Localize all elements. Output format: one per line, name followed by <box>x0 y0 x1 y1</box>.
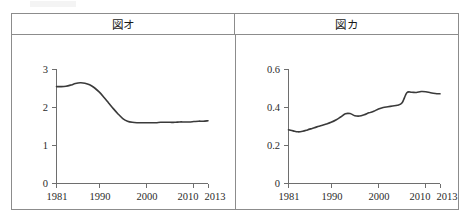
x-ticks-left <box>57 184 209 189</box>
y-tick-label: 1 <box>43 140 48 151</box>
data-line-left <box>57 83 209 123</box>
x-tick-labels-right: 1981 1990 2000 2010 2013 <box>279 191 458 202</box>
x-tick-label: 2010 <box>178 191 199 202</box>
figure-title-left: 図オ <box>12 14 235 34</box>
y-tick-labels-left: 3 2 1 0 <box>43 64 48 189</box>
x-tick-label: 1990 <box>322 191 343 202</box>
x-tick-label: 2013 <box>205 191 226 202</box>
chart-svg-right: 0.6 0.4 0.2 0 1981 1990 <box>236 35 459 209</box>
y-tick-label: 0 <box>43 178 48 189</box>
y-tick-label: 0.4 <box>267 102 281 113</box>
data-line-right <box>289 91 441 131</box>
x-tick-label: 2000 <box>369 191 390 202</box>
x-tick-labels-left: 1981 1990 2000 2010 2013 <box>47 191 226 202</box>
figure-title-right: 図カ <box>235 14 458 34</box>
y-tick-label: 3 <box>43 64 48 75</box>
x-tick-label: 1981 <box>47 191 68 202</box>
scan-artifact <box>30 1 76 7</box>
x-ticks-right <box>289 184 441 189</box>
x-tick-label: 2000 <box>137 191 158 202</box>
chart-panel-left: 3 2 1 0 1981 1990 <box>12 35 236 209</box>
chart-panel-right: 0.6 0.4 0.2 0 1981 1990 <box>236 35 459 209</box>
y-tick-label: 0.6 <box>267 64 280 75</box>
x-tick-label: 2010 <box>410 191 431 202</box>
y-tick-label: 0.2 <box>267 140 280 151</box>
page-root: 図オ 図カ 3 2 1 <box>0 0 470 222</box>
chart-svg-left: 3 2 1 0 1981 1990 <box>12 35 235 209</box>
x-tick-label: 1981 <box>279 191 300 202</box>
figure-title-row: 図オ 図カ <box>12 14 458 35</box>
y-tick-label: 2 <box>43 102 48 113</box>
figure-plot-row: 3 2 1 0 1981 1990 <box>12 35 458 209</box>
figure-table: 図オ 図カ 3 2 1 <box>11 13 459 210</box>
x-tick-label: 1990 <box>90 191 111 202</box>
y-tick-labels-right: 0.6 0.4 0.2 0 <box>267 64 281 189</box>
y-ticks-right <box>284 70 289 184</box>
y-tick-label: 0 <box>275 178 280 189</box>
x-tick-label: 2013 <box>437 191 458 202</box>
